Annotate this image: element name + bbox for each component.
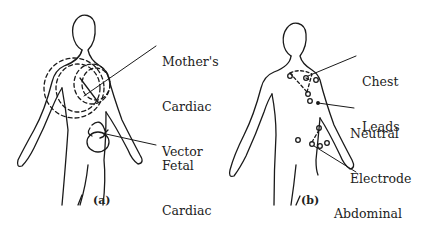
mother-cardiac-vector-fields	[44, 58, 110, 118]
mother-vector-arrow	[80, 46, 156, 102]
panel-b-label: (b)	[301, 194, 319, 207]
neutral-electrode-marker	[317, 102, 354, 108]
fetal-cardiac-vector-label: Fetal Cardiac Vector	[162, 128, 211, 225]
fetus-drawing	[87, 122, 156, 152]
abdominal-lead-electrodes	[296, 126, 356, 172]
figure-a-body	[18, 15, 143, 205]
panel-a-label: (a)	[93, 194, 111, 207]
chest-lead-electrodes	[288, 56, 356, 103]
abdominal-lead-placements-label: Abdominal Lead Placements	[334, 176, 407, 225]
